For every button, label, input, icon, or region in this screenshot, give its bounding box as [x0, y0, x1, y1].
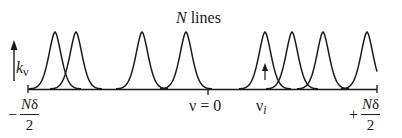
zero-frequency-label: ν = 0 — [189, 98, 221, 114]
right-bound-label: + Nδ 2 — [349, 97, 380, 133]
absorption-lines — [29, 32, 377, 89]
y-axis-label: kν — [16, 60, 29, 78]
spectral-line-peak — [160, 32, 212, 89]
diagram-title: N lines — [176, 10, 221, 26]
spectral-line-peak — [116, 32, 168, 89]
spectral-line-peak — [341, 32, 377, 89]
line-frequency-label: νi — [256, 98, 267, 116]
left-bound-label: − Nδ 2 — [8, 97, 39, 133]
k-nu-arrowhead-icon — [11, 40, 18, 50]
line-center-arrowhead-icon — [262, 63, 268, 71]
spectral-line-peak — [239, 32, 291, 89]
